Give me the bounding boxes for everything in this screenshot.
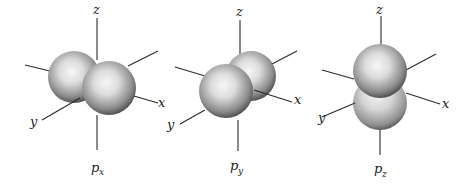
z-axis-label: z [375, 2, 383, 17]
y-axis-front [322, 103, 355, 117]
orbital-label-subscript: y [237, 166, 244, 176]
z-axis-label: z [235, 4, 243, 19]
y-axis-back [406, 54, 436, 70]
x-axis-label: x [294, 92, 302, 107]
y-axis-front [42, 98, 80, 120]
y-axis-label: y [317, 110, 326, 125]
y-axis-label: y [29, 114, 38, 129]
orbital-px: z y p x [25, 2, 158, 177]
y-axis-back [272, 51, 297, 64]
orbital-label-subscript: z [381, 169, 387, 179]
z-axis-label: z [92, 2, 100, 17]
y-axis-front [180, 110, 205, 124]
orbital-lobe-upper [353, 44, 407, 98]
orbital-lobe-front [82, 61, 136, 115]
orbital-pz: z y x p z [317, 2, 450, 179]
p-orbitals-diagram: z y p x z y x p y x z y x p z [0, 0, 469, 184]
orbital-label-subscript: x [99, 167, 104, 177]
y-axis-back [128, 51, 158, 66]
y-axis-label: y [166, 117, 175, 132]
orbital-lobe-front [199, 64, 253, 118]
orbital-py: z y x p y [166, 4, 302, 176]
x-axis-label: x [442, 96, 450, 111]
px-x-axis-label: x [158, 95, 166, 110]
x-axis-back [175, 67, 205, 76]
x-axis-front [134, 96, 158, 103]
x-axis-back [322, 70, 354, 79]
x-axis-front [406, 93, 440, 104]
